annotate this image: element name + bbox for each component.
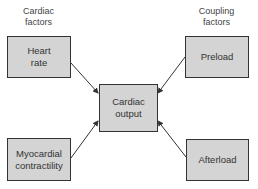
afterload-label: Afterload <box>198 154 236 166</box>
coupling-factors-line-1: Coupling <box>185 6 248 17</box>
preload-label: Preload <box>201 51 234 63</box>
cardiac-factors-line-1: Cardiac <box>7 6 70 17</box>
arrow-heart-rate-to-output <box>71 63 98 93</box>
coupling-factors-line-2: factors <box>185 17 248 28</box>
arrow-afterload-to-output <box>158 121 186 157</box>
preload-node: Preload <box>185 36 249 78</box>
cardiac-factors-label: Cardiac factors <box>7 6 70 28</box>
cardiac-output-line-1: Cardiac <box>112 96 145 108</box>
contractility-line-1: Myocardial <box>15 148 63 160</box>
afterload-node: Afterload <box>186 139 249 181</box>
cardiac-output-node: Cardiac output <box>99 84 158 132</box>
heart-rate-line-1: Heart <box>27 45 50 57</box>
cardiac-factors-line-2: factors <box>7 17 70 28</box>
heart-rate-line-2: rate <box>27 57 50 69</box>
cardiac-output-line-2: output <box>112 108 145 120</box>
coupling-factors-label: Coupling factors <box>185 6 248 28</box>
arrow-contractility-to-output <box>71 121 98 158</box>
arrow-preload-to-output <box>158 57 185 93</box>
contractility-line-2: contractility <box>15 160 63 172</box>
heart-rate-node: Heart rate <box>7 36 71 78</box>
myocardial-contractility-node: Myocardial contractility <box>7 138 71 181</box>
